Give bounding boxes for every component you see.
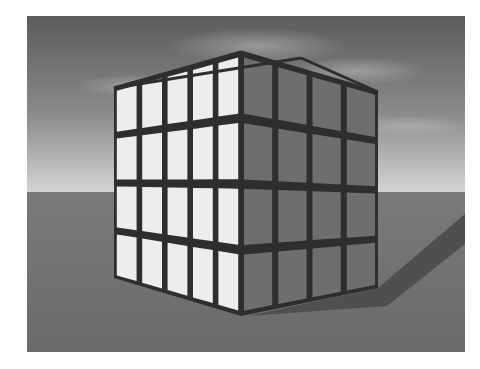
- left-face-panel: [168, 187, 188, 237]
- left-face-panel: [117, 85, 137, 132]
- left-face-panel: [142, 133, 162, 180]
- right-face-panel: [278, 67, 306, 125]
- right-face-panel: [347, 87, 375, 137]
- cropped-caption: [0, 0, 480, 5]
- left-face-panel: [117, 234, 137, 281]
- left-face-panel: [218, 188, 238, 245]
- right-face-panel: [278, 129, 306, 183]
- right-face-panel: [244, 189, 272, 245]
- right-face-panel: [347, 192, 375, 237]
- cube-right-face: [241, 52, 378, 316]
- right-face-panel: [347, 140, 375, 187]
- left-face-panel: [142, 187, 162, 234]
- left-face-panel: [193, 188, 213, 241]
- right-face-panel: [313, 77, 341, 131]
- left-face-panel: [193, 247, 213, 303]
- left-face-panel: [142, 78, 162, 128]
- right-face-panel: [313, 246, 341, 297]
- left-face-panel: [117, 187, 137, 231]
- right-face-panel: [313, 134, 341, 184]
- right-face-panel: [313, 191, 341, 240]
- cube-left-face: [114, 52, 241, 316]
- right-face-panel: [244, 252, 272, 311]
- left-face-panel: [218, 123, 238, 179]
- rendered-cube-photo: [27, 16, 465, 352]
- left-face-panel: [218, 58, 238, 117]
- right-face-panel: [278, 190, 306, 243]
- right-face-panel: [244, 123, 272, 181]
- left-face-panel: [218, 251, 238, 310]
- left-face-panel: [117, 136, 137, 180]
- left-face-panel: [142, 239, 162, 289]
- right-face-panel: [278, 249, 306, 304]
- left-face-panel: [168, 243, 188, 296]
- right-face-panel: [347, 243, 375, 291]
- left-face-panel: [193, 126, 213, 179]
- left-face-panel: [168, 130, 188, 180]
